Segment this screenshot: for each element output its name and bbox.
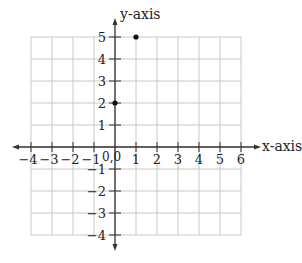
y-axis-down-arrow-icon bbox=[113, 244, 118, 251]
y-tick-label: 1 bbox=[98, 118, 106, 133]
x-tick-label: 3 bbox=[174, 152, 182, 167]
y-tick-label: −1 bbox=[87, 162, 106, 177]
x-axis-label: x-axis bbox=[262, 138, 302, 154]
x-axis-left-arrow-icon bbox=[12, 145, 19, 150]
y-axis-label: y-axis bbox=[119, 6, 161, 22]
data-point bbox=[133, 34, 138, 39]
y-tick-label: 3 bbox=[98, 74, 106, 89]
x-tick-label: −4 bbox=[18, 152, 37, 167]
x-tick-label: 6 bbox=[237, 152, 245, 167]
x-tick-label: 5 bbox=[216, 152, 224, 167]
x-axis-right-arrow-icon bbox=[254, 145, 261, 150]
grid-lines bbox=[31, 37, 241, 235]
y-tick-label: 4 bbox=[98, 52, 106, 67]
x-tick-label: 2 bbox=[153, 152, 161, 167]
x-tick-label: −3 bbox=[39, 152, 58, 167]
x-tick-label: 1 bbox=[132, 152, 140, 167]
data-point bbox=[112, 100, 117, 105]
origin-label: 0,0 bbox=[102, 150, 121, 164]
y-tick-label: −2 bbox=[87, 184, 106, 199]
x-tick-label: 4 bbox=[195, 152, 203, 167]
plotted-points bbox=[112, 34, 138, 105]
x-tick-label: −2 bbox=[60, 152, 79, 167]
y-tick-label: 5 bbox=[98, 30, 106, 45]
y-tick-label: 2 bbox=[98, 96, 106, 111]
y-axis-up-arrow-icon bbox=[113, 18, 118, 25]
coordinate-plane: −4−3−2−112345654321−1−2−3−4 x-axis y-axi… bbox=[0, 0, 302, 263]
y-tick-label: −3 bbox=[87, 206, 106, 221]
y-tick-label: −4 bbox=[87, 228, 106, 243]
